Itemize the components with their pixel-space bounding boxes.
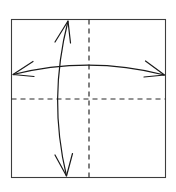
diagram-canvas: [0, 0, 176, 192]
diagram-container: [0, 0, 176, 192]
vertical-top-arrowhead-icon: [55, 21, 71, 43]
horizontal-left-arrowhead-icon: [13, 62, 34, 77]
